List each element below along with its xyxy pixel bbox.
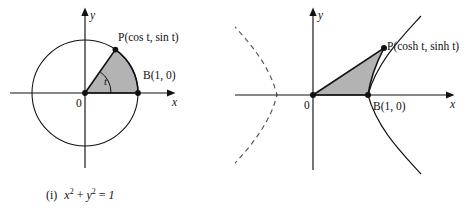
panel-hyperbola: P(cosh t, sinh t) B(1, 0) 0 x y (ii)x2 −… [235,0,470,211]
caption-number-circle: (i) [46,188,57,202]
x-axis-label-circle: x [172,97,177,109]
point-p-marker [113,47,119,53]
point-b-marker [135,90,141,96]
point-b-label-circle: B(1, 0) [143,70,176,82]
x-axis-label-hyperbola: x [450,99,455,111]
point-origin-marker [310,92,316,98]
point-p-label-hyperbola: P(cosh t, sinh t) [387,41,459,53]
point-p-label-circle: P(cos t, sin t) [118,32,179,44]
hyperbola-diagram [235,0,470,211]
panel-circle: P(cos t, sin t) B(1, 0) 0 t x y (i)x2 + … [0,0,235,211]
caption-circle: (i)x2 + y2 = 1 [46,188,115,203]
hyperbolic-sector-shading [313,48,384,95]
caption-equation-circle: x2 + y2 = 1 [64,188,114,202]
point-b-marker [365,92,371,98]
origin-label-circle: 0 [76,98,82,110]
point-b-label-hyperbola: B(1, 0) [373,101,406,113]
y-axis-label-hyperbola: y [318,10,323,22]
point-origin-marker [82,90,88,96]
figure-root: P(cos t, sin t) B(1, 0) 0 t x y (i)x2 + … [0,0,470,211]
y-axis-label-circle: y [90,10,95,22]
origin-label-hyperbola: 0 [304,100,310,112]
angle-label-t: t [104,76,107,87]
circular-sector-shading [85,50,138,93]
